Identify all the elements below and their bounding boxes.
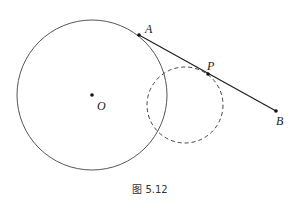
point-b (274, 109, 278, 113)
figure-caption: 图 5.12 (132, 184, 167, 195)
label-a: A (144, 22, 153, 36)
label-b: B (276, 114, 284, 128)
point-o (90, 93, 94, 97)
label-p: P (206, 59, 215, 73)
label-o: O (97, 99, 106, 113)
point-a (137, 33, 141, 37)
dashed-circle (147, 67, 223, 143)
geometry-figure: O A P B 图 5.12 (0, 0, 301, 206)
